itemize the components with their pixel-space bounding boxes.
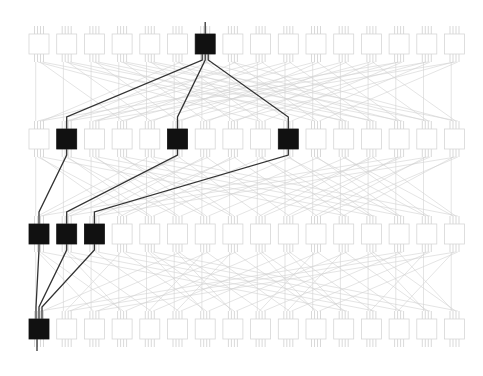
switch-node-s2-n13[interactable]: [389, 224, 409, 244]
idle-link: [292, 252, 431, 311]
idle-link: [181, 252, 319, 311]
idle-link: [42, 62, 181, 121]
switch-node-s0-n10[interactable]: [306, 34, 326, 54]
idle-link: [96, 252, 179, 311]
switch-node-s3-n11[interactable]: [334, 319, 354, 339]
switch-node-s1-n11[interactable]: [334, 129, 354, 149]
switch-node-s2-n12[interactable]: [361, 224, 381, 244]
idle-link: [96, 62, 179, 121]
idle-link: [292, 62, 431, 121]
switch-node-s3-n8[interactable]: [251, 319, 271, 339]
switch-node-s0-n4[interactable]: [140, 34, 160, 54]
switch-node-active-s0-n6[interactable]: [195, 34, 215, 54]
switch-node-s0-n9[interactable]: [278, 34, 298, 54]
network-diagram: [0, 0, 483, 376]
switch-node-s3-n10[interactable]: [306, 319, 326, 339]
idle-link: [68, 252, 151, 311]
switch-node-s3-n15[interactable]: [445, 319, 465, 339]
highlighted-link: [94, 149, 288, 224]
switch-node-active-s2-n1[interactable]: [57, 224, 77, 244]
switch-node-s3-n2[interactable]: [84, 319, 104, 339]
switch-node-s3-n7[interactable]: [223, 319, 243, 339]
idle-link: [181, 62, 319, 121]
switch-node-s3-n4[interactable]: [140, 319, 160, 339]
switch-node-s1-n2[interactable]: [84, 129, 104, 149]
switch-node-s2-n6[interactable]: [195, 224, 215, 244]
idle-link: [68, 252, 428, 311]
switch-node-s0-n7[interactable]: [223, 34, 243, 54]
idle-link: [153, 252, 292, 311]
switch-node-s1-n14[interactable]: [417, 129, 437, 149]
switch-node-s0-n13[interactable]: [389, 34, 409, 54]
idle-link: [40, 252, 123, 311]
idle-link: [96, 252, 456, 311]
switch-node-s1-n6[interactable]: [195, 129, 215, 149]
idle-link: [70, 62, 209, 121]
idle-link: [236, 252, 375, 311]
switch-node-s2-n15[interactable]: [445, 224, 465, 244]
switch-node-s1-n4[interactable]: [140, 129, 160, 149]
highlighted-link: [39, 149, 67, 224]
switch-node-s1-n13[interactable]: [389, 129, 409, 149]
switch-node-s3-n14[interactable]: [417, 319, 437, 339]
idle-link: [40, 62, 123, 121]
switch-node-s3-n1[interactable]: [57, 319, 77, 339]
switch-node-s0-n8[interactable]: [251, 34, 271, 54]
switch-node-s2-n9[interactable]: [278, 224, 298, 244]
switch-node-s3-n6[interactable]: [195, 319, 215, 339]
idle-link: [319, 252, 458, 311]
switch-node-active-s1-n5[interactable]: [168, 129, 188, 149]
switch-node-s3-n5[interactable]: [168, 319, 188, 339]
idle-link: [264, 252, 403, 311]
idle-link: [125, 157, 264, 216]
switch-node-s2-n7[interactable]: [223, 224, 243, 244]
switch-node-active-s2-n2[interactable]: [84, 224, 104, 244]
switch-node-s0-n5[interactable]: [168, 34, 188, 54]
switch-node-active-s1-n9[interactable]: [278, 129, 298, 149]
switch-node-active-s3-n0[interactable]: [29, 319, 49, 339]
switch-node-s0-n15[interactable]: [445, 34, 465, 54]
switch-node-s3-n3[interactable]: [112, 319, 132, 339]
switch-node-s2-n5[interactable]: [168, 224, 188, 244]
switch-node-s1-n12[interactable]: [361, 129, 381, 149]
idle-link: [68, 62, 428, 121]
switch-node-active-s1-n1[interactable]: [57, 129, 77, 149]
switch-node-s0-n11[interactable]: [334, 34, 354, 54]
switch-node-s2-n10[interactable]: [306, 224, 326, 244]
switch-node-active-s2-n0[interactable]: [29, 224, 49, 244]
idle-link: [40, 252, 400, 311]
switch-node-s0-n2[interactable]: [84, 34, 104, 54]
idle-link: [209, 62, 348, 121]
idle-link: [125, 252, 264, 311]
switch-node-s0-n3[interactable]: [112, 34, 132, 54]
switch-node-s1-n15[interactable]: [445, 129, 465, 149]
idle-link: [319, 62, 458, 121]
idle-link: [40, 157, 400, 216]
network-diagram-canvas: [0, 0, 483, 376]
idle-links: [36, 62, 458, 311]
idle-link: [98, 62, 237, 121]
switch-node-s3-n9[interactable]: [278, 319, 298, 339]
switch-node-s1-n8[interactable]: [251, 129, 271, 149]
switch-node-s1-n10[interactable]: [306, 129, 326, 149]
switch-node-s3-n13[interactable]: [389, 319, 409, 339]
switch-node-s0-n0[interactable]: [29, 34, 49, 54]
switch-node-s1-n3[interactable]: [112, 129, 132, 149]
idle-link: [153, 157, 292, 216]
switch-node-s0-n1[interactable]: [57, 34, 77, 54]
switch-node-s2-n11[interactable]: [334, 224, 354, 244]
idle-link: [236, 62, 375, 121]
idle-link: [40, 62, 400, 121]
switch-node-s1-n0[interactable]: [29, 129, 49, 149]
switch-node-s2-n4[interactable]: [140, 224, 160, 244]
switch-node-s3-n12[interactable]: [361, 319, 381, 339]
switch-node-s2-n14[interactable]: [417, 224, 437, 244]
idle-link: [68, 62, 151, 121]
idle-link: [125, 62, 264, 121]
switch-node-s0-n14[interactable]: [417, 34, 437, 54]
switch-node-s2-n8[interactable]: [251, 224, 271, 244]
switch-node-s1-n7[interactable]: [223, 129, 243, 149]
switch-node-s0-n12[interactable]: [361, 34, 381, 54]
idle-link: [70, 252, 209, 311]
switch-node-s2-n3[interactable]: [112, 224, 132, 244]
